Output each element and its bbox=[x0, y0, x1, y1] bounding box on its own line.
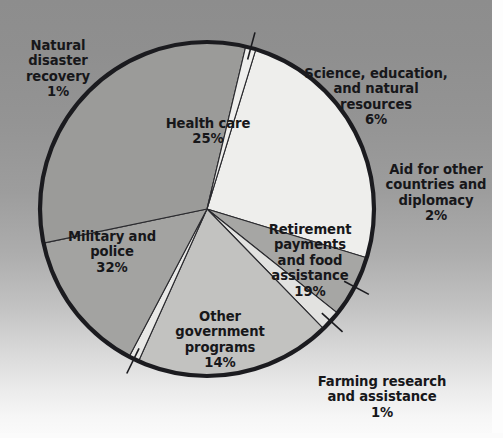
slice-label-natural-disaster: Natural disaster recovery 1% bbox=[2, 22, 114, 115]
slice-label-health-care-name: Health care bbox=[166, 116, 251, 131]
slice-label-other-government: Other government programs 14% bbox=[158, 293, 282, 386]
slice-label-farming: Farming research and assistance 1% bbox=[296, 358, 468, 436]
slice-label-science-pct: 6% bbox=[296, 112, 456, 128]
slice-label-natural-disaster-pct: 1% bbox=[2, 84, 114, 100]
pie-chart-figure: Natural disaster recovery 1% Science, ed… bbox=[0, 0, 503, 438]
slice-label-health-care-pct: 25% bbox=[140, 131, 276, 147]
slice-label-other-government-name: Other government programs bbox=[175, 309, 264, 355]
slice-label-military-pct: 32% bbox=[48, 260, 176, 276]
slice-label-aid-pct: 2% bbox=[372, 208, 500, 224]
slice-label-science-name: Science, education, and natural resource… bbox=[304, 66, 447, 112]
slice-label-science: Science, education, and natural resource… bbox=[296, 50, 456, 143]
slice-label-aid-name: Aid for other countries and diplomacy bbox=[386, 162, 487, 208]
slice-label-military: Military and police 32% bbox=[48, 213, 176, 291]
slice-label-farming-pct: 1% bbox=[296, 405, 468, 421]
slice-label-other-government-pct: 14% bbox=[158, 355, 282, 371]
slice-label-aid: Aid for other countries and diplomacy 2% bbox=[372, 146, 500, 239]
slice-label-military-name: Military and police bbox=[68, 229, 156, 260]
slice-label-retirement-name: Retirement payments and food assistance bbox=[269, 222, 352, 284]
slice-label-health-care: Health care 25% bbox=[140, 100, 276, 162]
slice-label-farming-name: Farming research and assistance bbox=[318, 374, 447, 405]
slice-label-natural-disaster-name: Natural disaster recovery bbox=[26, 38, 90, 84]
